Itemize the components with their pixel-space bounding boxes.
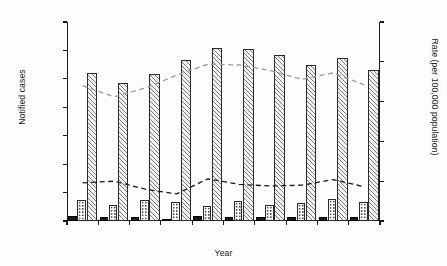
x-axis-tick-mark <box>160 221 161 225</box>
bar-hatched-bar-series-2007 <box>118 83 129 221</box>
y-axis-right-tick-mark <box>380 21 384 22</box>
y-axis-left-tick-mark <box>63 21 67 22</box>
bar-black-bar-series-2011 <box>225 217 234 221</box>
bar-black-bar-series-2012 <box>256 217 265 221</box>
bar-black-bar-series-2015 <box>350 217 359 221</box>
y-axis-left-tick-mark <box>63 192 67 193</box>
bar-hatched-bar-series-2006 <box>87 73 98 221</box>
bar-dotted-bar-series-2011 <box>234 201 243 221</box>
y-axis-left-tick-mark <box>63 78 67 79</box>
bar-hatched-bar-series-2011 <box>243 49 254 221</box>
x-axis-tick-mark <box>129 221 130 225</box>
bar-dotted-bar-series-2006 <box>77 200 86 221</box>
bar-dotted-bar-series-2009 <box>171 202 180 221</box>
x-axis-tick-mark <box>254 221 255 225</box>
x-axis-tick-mark <box>66 221 67 225</box>
bar-black-bar-series-2006 <box>68 216 77 221</box>
bar-dotted-bar-series-2008 <box>140 200 149 221</box>
bar-hatched-bar-series-2009 <box>181 60 192 221</box>
bar-black-bar-series-2008 <box>131 217 140 221</box>
x-axis-tick-mark <box>379 221 380 225</box>
bar-dotted-bar-series-2013 <box>297 203 306 221</box>
y-axis-right-title: Rate (per 100,000 population) <box>430 7 440 187</box>
bar-black-bar-series-2007 <box>100 217 109 221</box>
y-axis-left-tick-mark <box>63 164 67 165</box>
x-axis-tick-mark <box>286 221 287 225</box>
bar-black-bar-series-2013 <box>287 217 296 221</box>
y-axis-right-tick-mark <box>380 181 384 182</box>
x-axis-tick-mark <box>223 221 224 225</box>
y-axis-right-tick-mark <box>380 61 384 62</box>
bar-dotted-bar-series-2010 <box>203 206 212 221</box>
bar-dotted-bar-series-2015 <box>359 202 368 221</box>
bar-hatched-bar-series-2013 <box>306 65 317 221</box>
bar-black-bar-series-2010 <box>193 216 202 221</box>
y-axis-right-tick-mark <box>380 220 384 221</box>
bar-black-bar-series-2014 <box>319 217 328 221</box>
bar-hatched-bar-series-2008 <box>149 74 160 221</box>
y-axis-left-tick-mark <box>63 135 67 136</box>
y-axis-left-tick-mark <box>63 50 67 51</box>
bar-dotted-bar-series-2007 <box>109 205 118 221</box>
bar-dotted-bar-series-2014 <box>328 199 337 221</box>
x-axis-title: Year <box>0 248 447 258</box>
chart-container: Notified cases Rate (per 100,000 populat… <box>0 0 447 266</box>
bar-dotted-bar-series-2012 <box>265 205 274 221</box>
bar-black-bar-series-2009 <box>162 219 171 221</box>
bar-hatched-bar-series-2015 <box>368 70 379 221</box>
y-axis-right-tick-mark <box>380 101 384 102</box>
y-axis-left-title: Notified cases <box>17 37 27 157</box>
bar-hatched-bar-series-2014 <box>337 58 348 221</box>
x-axis-tick-mark <box>192 221 193 225</box>
x-axis-tick-mark <box>98 221 99 225</box>
x-axis-tick-mark <box>348 221 349 225</box>
y-axis-left-tick-mark <box>63 107 67 108</box>
bar-hatched-bar-series-2012 <box>274 55 285 221</box>
y-axis-right-tick-mark <box>380 141 384 142</box>
plot-area <box>67 22 380 221</box>
x-axis-tick-mark <box>317 221 318 225</box>
bar-hatched-bar-series-2010 <box>212 48 223 221</box>
